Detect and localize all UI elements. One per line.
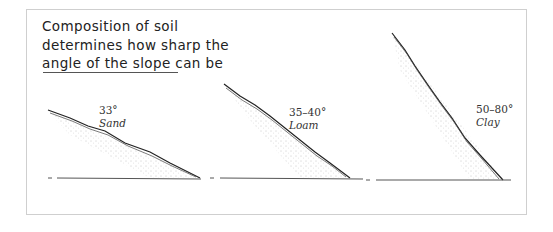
slope-illustrations — [0, 0, 553, 232]
clay-name: Clay — [476, 116, 513, 129]
loam-angle: 35–40° — [289, 106, 326, 119]
clay-angle: 50–80° — [476, 103, 513, 116]
loam-label: 35–40° Loam — [289, 106, 326, 132]
loam-slope — [210, 84, 363, 179]
loam-name: Loam — [289, 119, 326, 132]
sand-name: Sand — [99, 117, 126, 130]
sand-angle: 33° — [99, 104, 126, 117]
clay-label: 50–80° Clay — [476, 103, 513, 129]
sand-label: 33° Sand — [99, 104, 126, 130]
